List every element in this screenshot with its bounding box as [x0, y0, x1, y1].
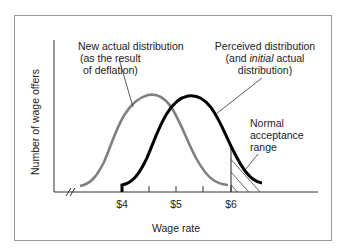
perceived-annotation: Perceived distribution (and initial actu…	[210, 40, 320, 76]
perceived-distribution-curve	[122, 96, 262, 192]
tick-label-6: $6	[225, 198, 237, 210]
perceived-pointer	[216, 78, 262, 114]
tick-label-4: $4	[116, 198, 128, 210]
new-actual-annotation: New actual distribution (as the result o…	[78, 40, 184, 76]
acceptance-annotation: Normal acceptance range	[250, 117, 304, 153]
acceptance-pointer	[245, 154, 258, 170]
tick-label-5: $5	[170, 198, 182, 210]
x-ticks	[122, 186, 231, 192]
y-axis-label: Number of wage offers	[29, 47, 41, 197]
x-axis-label: Wage rate	[152, 222, 200, 234]
